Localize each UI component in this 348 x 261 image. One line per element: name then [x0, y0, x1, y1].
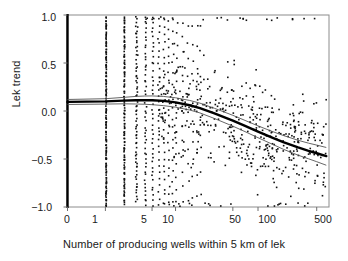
x-tick-marks — [68, 207, 317, 211]
chart-figure: Lek trend Number of producing wells with… — [0, 0, 348, 261]
plot-canvas — [0, 0, 348, 261]
scatter-points — [105, 16, 327, 207]
